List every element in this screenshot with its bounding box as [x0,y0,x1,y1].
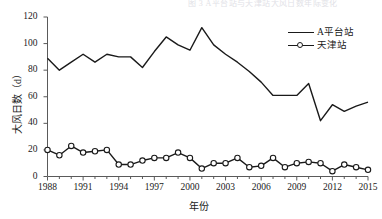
y-tick-label: 80 [12,65,38,75]
data-point-marker [235,155,240,160]
data-point-marker [187,155,192,160]
x-axis-title: 年份 [189,201,209,212]
x-axis-title-wrap: 年份 [0,198,375,213]
chart-legend: A平台站 天津站 [288,26,354,52]
data-point-marker [247,165,252,170]
x-tick-label: 2000 [172,183,208,193]
x-tick-label: 1997 [136,183,172,193]
x-tick-label: 2006 [243,183,279,193]
data-point-marker [80,150,85,155]
data-point-marker [211,161,216,166]
x-tick-label: 1991 [65,183,101,193]
data-point-marker [164,155,169,160]
data-point-marker [92,149,97,154]
data-point-marker [128,162,133,167]
legend-label-platform-a: A平台站 [317,26,354,39]
y-tick-label: 40 [12,118,38,128]
y-tick-label: 100 [12,39,38,49]
data-point-marker [223,161,228,166]
legend-label-tianjin: 天津站 [317,39,347,52]
y-tick-label: 120 [12,12,38,22]
y-tick-label: 0 [12,172,38,182]
data-point-marker [116,162,121,167]
legend-item-platform-a[interactable]: A平台站 [288,26,354,39]
data-point-marker [365,167,370,172]
x-tick-label: 2003 [208,183,244,193]
x-tick-label: 1994 [101,183,137,193]
data-point-marker [152,155,157,160]
y-tick-label: 60 [12,92,38,102]
data-point-marker [294,161,299,166]
data-point-marker [45,147,50,152]
data-point-marker [69,143,74,148]
legend-item-tianjin[interactable]: 天津站 [288,39,354,52]
data-point-marker [306,159,311,164]
data-point-marker [318,161,323,166]
legend-swatch-circle-marker-icon [288,40,314,52]
clipped-caption-artifact: 图 3 A平台站与天津站大风日数年际变化 [188,0,373,7]
legend-swatch-line-icon [288,27,314,39]
data-point-marker [270,155,275,160]
data-point-marker [104,147,109,152]
data-point-marker [282,165,287,170]
data-point-marker [199,166,204,171]
y-tick-label: 20 [12,145,38,155]
data-point-marker [175,150,180,155]
data-point-marker [57,153,62,158]
data-point-marker [140,158,145,163]
x-tick-marks [48,177,369,181]
series-2 [45,143,371,174]
x-tick-label: 2012 [314,183,350,193]
x-tick-label: 2009 [279,183,315,193]
x-tick-label: 1988 [30,183,66,193]
data-point-marker [353,165,358,170]
x-tick-label: 2015 [350,183,382,193]
data-point-marker [342,162,347,167]
data-point-marker [258,163,263,168]
data-point-marker [330,168,335,173]
